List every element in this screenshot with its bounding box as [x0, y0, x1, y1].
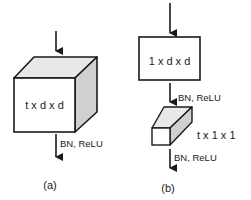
spatial-activation-label: BN, ReLU [178, 92, 221, 103]
3d-conv-cube [14, 57, 97, 132]
activation-label: BN, ReLU [60, 138, 103, 149]
temporal-dimension-label: t x 1 x 1 [197, 129, 236, 141]
panel-caption: (a) [43, 179, 56, 191]
temporal-activation-label: BN, ReLU [174, 152, 217, 163]
temporal-conv-box [152, 107, 192, 145]
panel-caption: (b) [161, 182, 174, 194]
panel-a: t x d x d BN, ReLU (a) [14, 31, 103, 191]
spatial-dimension-label: 1 x d x d [149, 55, 191, 67]
panel-b: 1 x d x d BN, ReLU t x 1 x 1 BN, ReLU (b… [139, 3, 236, 194]
box-front-face [152, 128, 170, 145]
cube-dimension-label: t x d x d [25, 99, 64, 111]
diagram-canvas: t x d x d BN, ReLU (a) 1 x d x d BN, ReL… [0, 0, 251, 200]
